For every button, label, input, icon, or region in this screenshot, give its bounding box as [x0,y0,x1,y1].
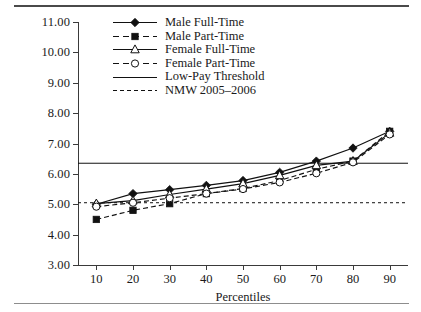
data-point-marker [132,33,138,39]
x-tick [206,265,207,270]
legend-key-icon [112,43,158,56]
figure-container: Gross Hourly Earnings (Pounds) 3.004.005… [0,0,421,312]
x-tick [353,265,354,270]
legend-key-icon [112,16,158,29]
x-tick [390,265,391,270]
series-female-part-time [93,131,394,210]
y-tick-label: 11.00 [42,15,70,30]
y-tick-label: 6.00 [48,166,70,181]
x-tick-label: 60 [273,272,286,287]
bottom-rule [14,303,409,304]
data-point-marker [131,45,139,53]
x-tick [316,265,317,270]
legend-key-icon [112,57,158,70]
y-tick-label: 5.00 [48,197,70,212]
x-tick [96,265,97,270]
legend-label: Low-Pay Threshold [165,70,264,84]
legend-item[interactable]: Male Full-Time [112,16,264,30]
series-female-full-time [92,128,394,207]
x-tick-label: 50 [237,272,250,287]
data-point-marker [313,170,320,177]
x-axis-title: Percentiles [216,290,271,305]
x-tick-label: 80 [347,272,360,287]
data-point-marker [93,203,100,210]
data-point-marker [349,144,357,152]
series-line [96,131,389,204]
data-point-marker [386,131,393,138]
x-tick-label: 40 [200,272,213,287]
x-tick-label: 30 [163,272,176,287]
legend-item[interactable]: Female Full-Time [112,43,264,57]
legend-item[interactable]: NMW 2005–2006 [112,84,264,98]
series-line [96,131,389,219]
x-tick [243,265,244,270]
legend-item[interactable]: Female Part-Time [112,57,264,71]
x-tick [133,265,134,270]
series-male-full-time [92,127,394,208]
y-tick-label: 8.00 [48,106,70,121]
data-point-marker [131,19,139,27]
y-tick-label: 4.00 [48,227,70,242]
legend: Male Full-TimeMale Part-TimeFemale Full-… [112,16,264,98]
series-male-part-time [93,128,393,222]
legend-label: Male Full-Time [165,16,244,30]
data-point-marker [93,216,99,222]
legend-item[interactable]: Low-Pay Threshold [112,70,264,84]
y-tick-label: 9.00 [48,75,70,90]
series-line [96,134,389,206]
data-point-marker [166,195,173,202]
y-tick-label: 10.00 [41,45,70,60]
data-point-marker [349,159,356,166]
x-tick [170,265,171,270]
x-tick-label: 90 [383,272,396,287]
y-tick [73,265,78,266]
data-point-marker [130,207,136,213]
x-tick-label: 70 [310,272,323,287]
legend-item[interactable]: Male Part-Time [112,30,264,44]
legend-key-icon [112,30,158,43]
data-point-marker [203,190,210,197]
data-point-marker [131,60,138,67]
y-tick-label: 3.00 [48,258,70,273]
x-tick [280,265,281,270]
legend-label: Male Part-Time [165,30,244,44]
legend-key-icon [112,71,158,84]
x-tick-label: 10 [90,272,103,287]
legend-label: NMW 2005–2006 [165,84,256,98]
data-point-marker [276,179,283,186]
legend-label: Female Part-Time [165,57,255,71]
legend-key-icon [112,84,158,97]
top-rule [14,5,409,7]
data-point-marker [129,199,136,206]
data-point-marker [239,185,246,192]
legend-label: Female Full-Time [165,43,255,57]
y-tick-label: 7.00 [48,136,70,151]
x-tick-label: 20 [127,272,140,287]
